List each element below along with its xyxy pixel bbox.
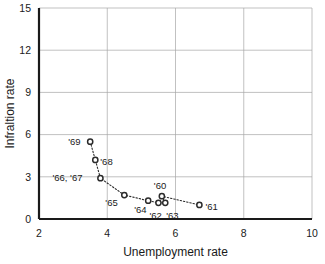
chart-background [0, 0, 325, 264]
y-tick-label: 9 [25, 86, 31, 98]
data-point-label: '61 [205, 201, 217, 212]
data-point-marker [122, 192, 127, 197]
y-tick-label: 0 [25, 213, 31, 225]
data-point-label: '64 [134, 204, 146, 215]
data-point-marker [93, 157, 98, 162]
y-tick-label: 6 [25, 128, 31, 140]
x-axis-title: Unemployment rate [123, 245, 228, 259]
data-point-marker [156, 200, 161, 205]
data-point-marker [146, 198, 151, 203]
y-tick-label: 15 [19, 2, 31, 14]
y-tick-label: 3 [25, 171, 31, 183]
x-tick-label: 8 [241, 227, 247, 239]
data-point-label: '68 [100, 156, 112, 167]
scatter-chart: 03691215 246810 '69'68'66, '67'65'64'62'… [0, 0, 325, 264]
data-point-label: '69 [68, 136, 80, 147]
data-point-label: '62 [149, 210, 161, 221]
x-tick-label: 6 [173, 227, 179, 239]
data-point-marker [163, 200, 168, 205]
data-point-label: '60 [154, 180, 166, 191]
data-point-marker [159, 194, 164, 199]
y-axis-title: Infraltion rate [3, 78, 17, 148]
data-point-marker [88, 139, 93, 144]
data-point-label: '63 [166, 210, 178, 221]
chart-canvas: 03691215 246810 '69'68'66, '67'65'64'62'… [0, 0, 325, 264]
data-point-label: '65 [105, 197, 117, 208]
data-point-marker [197, 202, 202, 207]
x-tick-label: 2 [36, 227, 42, 239]
x-tick-label: 4 [104, 227, 110, 239]
y-tick-label: 12 [19, 44, 31, 56]
data-point-label: '66, '67 [52, 172, 82, 183]
x-tick-label: 10 [306, 227, 318, 239]
data-point-marker [98, 176, 103, 181]
